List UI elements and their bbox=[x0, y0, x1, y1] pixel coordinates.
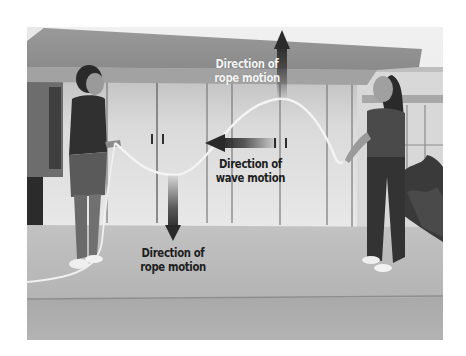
label-line2: rope motion bbox=[207, 71, 286, 85]
rope-wave-photo: Direction of rope motion Direction of wa… bbox=[27, 27, 443, 340]
label-line1: Direction of bbox=[133, 246, 214, 260]
wave-motion-label: Direction of wave motion bbox=[209, 157, 293, 185]
label-line2: wave motion bbox=[209, 171, 293, 185]
street bbox=[27, 297, 443, 340]
label-line2: rope motion bbox=[133, 260, 214, 274]
label-line1: Direction of bbox=[209, 157, 293, 171]
label-line1: Direction of bbox=[207, 57, 286, 71]
top-rope-motion-label: Direction of rope motion bbox=[207, 57, 286, 85]
bottom-rope-motion-label: Direction of rope motion bbox=[133, 246, 214, 274]
